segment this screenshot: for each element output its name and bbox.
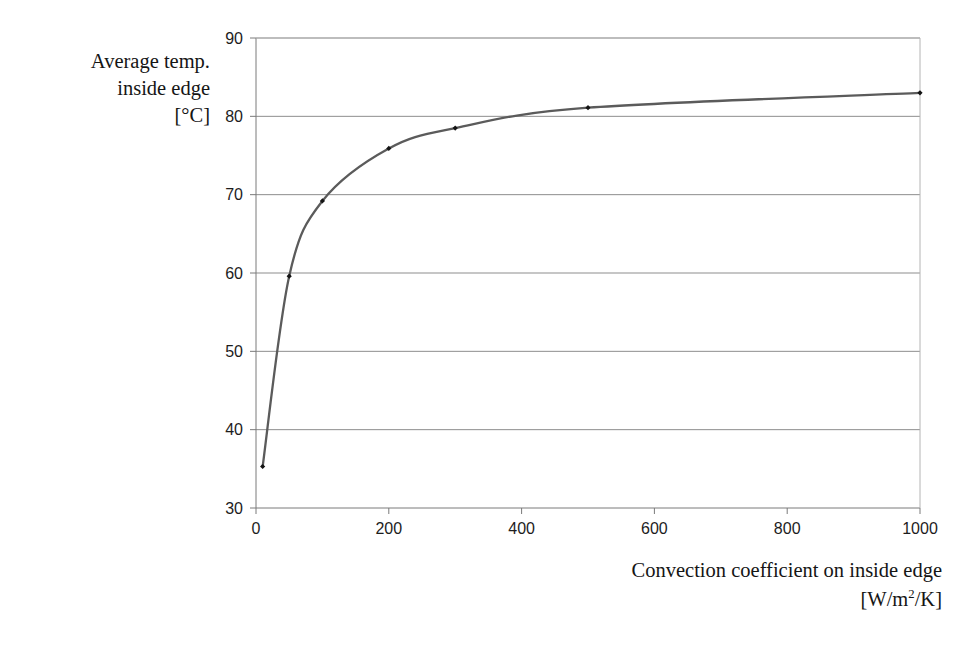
x-tick-label-200: 200 — [375, 520, 402, 537]
y-tick-label-80: 80 — [225, 108, 243, 125]
x-tick-label-1000: 1000 — [902, 520, 938, 537]
x-tick-label-600: 600 — [641, 520, 668, 537]
data-series-line — [263, 93, 920, 467]
data-point-marker — [917, 90, 922, 95]
x-tick-labels: 02004006008001000 — [252, 520, 938, 537]
y-tick-label-50: 50 — [225, 343, 243, 360]
y-tick-label-70: 70 — [225, 186, 243, 203]
x-tick-label-800: 800 — [774, 520, 801, 537]
y-tick-label-40: 40 — [225, 421, 243, 438]
x-tick-label-0: 0 — [252, 520, 261, 537]
y-tick-label-30: 30 — [225, 500, 243, 517]
y-tick-label-90: 90 — [225, 30, 243, 47]
data-point-marker — [453, 125, 458, 130]
data-point-markers — [260, 90, 923, 469]
data-point-marker — [260, 464, 265, 469]
chart-figure: Average temp. inside edge [°C] Convectio… — [0, 0, 967, 654]
data-point-marker — [585, 105, 590, 110]
y-tick-labels: 30405060708090 — [225, 30, 243, 517]
plot-area: 30405060708090 02004006008001000 — [0, 0, 967, 654]
tick-marks — [250, 38, 920, 514]
y-tick-label-60: 60 — [225, 265, 243, 282]
data-point-marker — [287, 274, 292, 279]
x-tick-label-400: 400 — [508, 520, 535, 537]
